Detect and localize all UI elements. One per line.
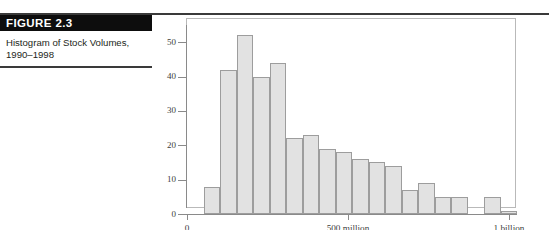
histogram-bar: [385, 166, 402, 214]
x-axis-tick-label: 1 billion: [493, 223, 524, 230]
y-axis-tick-mark: [178, 77, 186, 78]
histogram-bar: [501, 211, 518, 214]
y-axis-tick-label-text: 30: [161, 106, 176, 115]
histogram-bar: [286, 138, 303, 214]
y-axis-tick-label: 50: [161, 38, 176, 47]
histogram-bar: [402, 190, 419, 214]
y-axis-tick-label: 0: [161, 210, 176, 219]
histogram-bar: [220, 70, 237, 214]
y-axis-tick-label: 10: [161, 175, 176, 184]
y-axis-tick-mark: [178, 42, 186, 43]
histogram-bar: [270, 63, 287, 214]
histogram-bar: [484, 197, 501, 214]
histogram-bar: [418, 183, 435, 214]
y-axis-tick-mark: [178, 111, 186, 112]
x-axis-tick-label: 0: [185, 223, 190, 230]
x-axis-tick-mark: [187, 214, 188, 220]
histogram-bar: [336, 152, 353, 214]
y-axis-tick-mark: [178, 145, 186, 146]
figure-number-banner: FIGURE 2.3: [0, 15, 152, 31]
x-axis-tick-label: 500 million: [327, 223, 370, 230]
x-axis-tick-mark: [509, 214, 510, 220]
histogram-bar: [451, 197, 468, 214]
histogram-bar: [369, 162, 386, 214]
figure-number-label: FIGURE 2.3: [6, 16, 73, 30]
y-axis-tick-label-text: 50: [161, 38, 176, 47]
histogram-bar: [435, 197, 452, 214]
histogram-bar: [352, 159, 369, 214]
histogram-bar: [204, 187, 221, 214]
y-axis-tick-mark: [178, 214, 186, 215]
histogram-bars: [187, 25, 517, 214]
histogram-bar: [253, 77, 270, 214]
histogram-bar: [237, 35, 254, 214]
x-axis-tick-mark: [348, 214, 349, 220]
x-axis-line: [186, 214, 517, 215]
y-axis-tick-label-text: 0: [161, 210, 176, 219]
y-axis-tick-label-text: 20: [161, 141, 176, 150]
caption-underline-rule: [0, 66, 152, 68]
histogram-chart: 01020304050 0500 million1 billion: [161, 16, 549, 230]
y-axis-tick-label-text: 40: [161, 72, 176, 81]
histogram-bar: [303, 135, 320, 214]
y-axis-tick-label: 40: [161, 72, 176, 81]
histogram-bar: [319, 149, 336, 214]
y-axis-tick-label-text: 10: [161, 175, 176, 184]
y-axis-tick-mark: [178, 180, 186, 181]
figure-caption-text: Histogram of Stock Volumes, 1990–1998: [6, 37, 152, 62]
y-axis-tick-label: 20: [161, 141, 176, 150]
y-axis-tick-label: 30: [161, 106, 176, 115]
